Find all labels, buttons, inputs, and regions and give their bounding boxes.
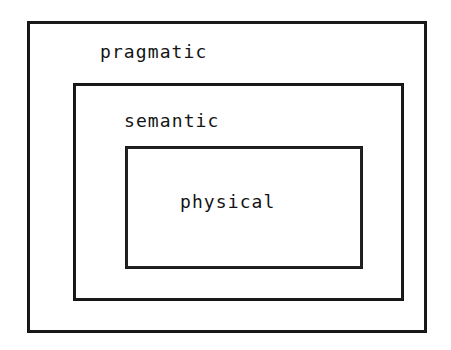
- diagram-canvas: pragmatic semantic physical: [0, 0, 451, 350]
- layer-label-pragmatic: pragmatic: [100, 43, 207, 61]
- layer-label-semantic: semantic: [124, 112, 220, 130]
- layer-label-physical: physical: [180, 193, 276, 211]
